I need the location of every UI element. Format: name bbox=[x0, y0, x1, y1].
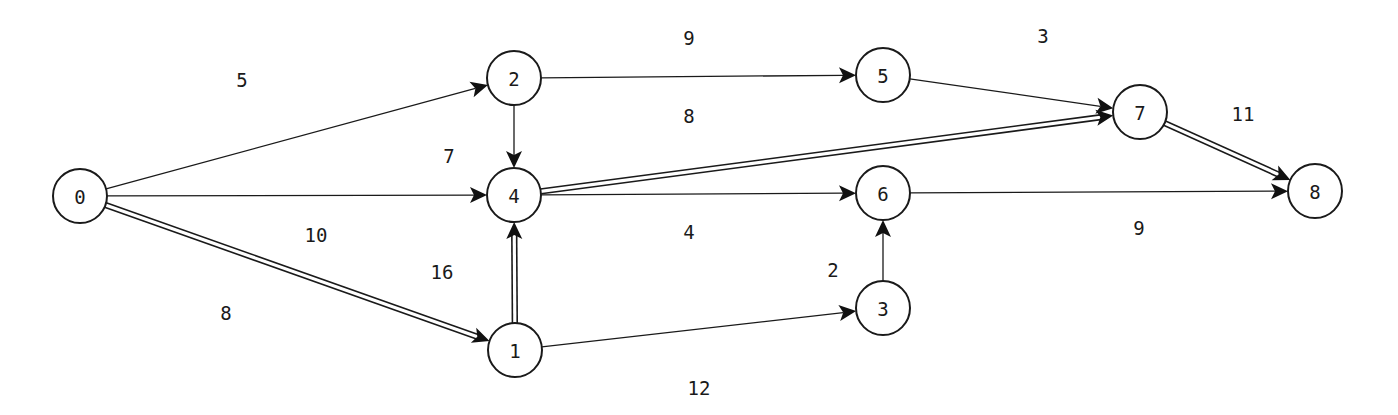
node-label: 6 bbox=[877, 183, 888, 205]
critical-edge-line bbox=[1164, 125, 1278, 176]
critical-edge-line bbox=[540, 115, 1100, 189]
node-3: 3 bbox=[856, 281, 910, 335]
edge-weight-5-7: 3 bbox=[1037, 25, 1048, 47]
edge-weight-1-3: 12 bbox=[688, 377, 711, 399]
arrowhead-icon bbox=[471, 328, 490, 343]
edge-weight-1-4: 16 bbox=[431, 261, 454, 283]
edge-line bbox=[910, 191, 1275, 193]
edge-weight-4-6: 4 bbox=[683, 221, 694, 243]
nodes-layer: 012345678 bbox=[53, 48, 1342, 377]
edge-weight-2-4: 7 bbox=[443, 145, 454, 167]
node-5: 5 bbox=[856, 48, 910, 102]
edge-weight-0-4: 10 bbox=[305, 224, 328, 246]
critical-edge-line bbox=[105, 207, 477, 339]
node-1: 1 bbox=[488, 323, 542, 377]
edge-line bbox=[541, 75, 843, 77]
critical-edge-line bbox=[541, 120, 1101, 194]
edge-0-2 bbox=[106, 82, 488, 189]
edge-weight-0-1: 8 bbox=[220, 302, 231, 324]
critical-edge-line bbox=[517, 235, 518, 323]
arrowhead-icon bbox=[506, 222, 522, 239]
edge-weight-2-5: 9 bbox=[683, 27, 694, 49]
node-label: 8 bbox=[1309, 181, 1320, 203]
edge-4-7 bbox=[540, 110, 1113, 194]
edge-weight-4-7: 8 bbox=[683, 105, 694, 127]
edge-2-4 bbox=[506, 105, 522, 168]
arrowhead-icon bbox=[1272, 166, 1291, 181]
critical-edge-line bbox=[106, 203, 478, 335]
node-6: 6 bbox=[856, 166, 910, 220]
node-7: 7 bbox=[1113, 85, 1167, 139]
edge-line bbox=[106, 88, 475, 188]
edge-weight-3-6: 2 bbox=[827, 259, 838, 281]
edge-1-3 bbox=[542, 305, 856, 347]
edge-line bbox=[107, 195, 474, 196]
node-label: 5 bbox=[877, 65, 888, 87]
node-label: 3 bbox=[877, 298, 888, 320]
edge-weight-0-2: 5 bbox=[236, 69, 247, 91]
edge-line bbox=[541, 193, 843, 195]
node-8: 8 bbox=[1288, 164, 1342, 218]
edge-0-4 bbox=[107, 187, 487, 203]
edge-line bbox=[910, 79, 1101, 106]
node-label: 4 bbox=[508, 185, 519, 207]
edge-2-5 bbox=[541, 67, 856, 83]
weights-layer: 51087916124823911 bbox=[220, 25, 1254, 399]
node-0: 0 bbox=[53, 169, 107, 223]
critical-edge-line bbox=[1166, 121, 1280, 172]
node-label: 7 bbox=[1134, 102, 1145, 124]
node-label: 1 bbox=[509, 340, 520, 362]
node-2: 2 bbox=[487, 51, 541, 105]
edge-1-4 bbox=[506, 222, 522, 323]
edge-3-6 bbox=[875, 220, 891, 281]
network-diagram: 51087916124823911 012345678 bbox=[0, 0, 1398, 415]
edge-5-7 bbox=[910, 79, 1114, 114]
node-label: 0 bbox=[74, 186, 85, 208]
edge-line bbox=[542, 313, 843, 347]
node-label: 2 bbox=[508, 68, 519, 90]
edge-weight-6-8: 9 bbox=[1133, 217, 1144, 239]
edge-7-8 bbox=[1164, 121, 1291, 180]
node-4: 4 bbox=[487, 168, 541, 222]
edge-weight-7-8: 11 bbox=[1232, 103, 1255, 125]
edge-6-8 bbox=[910, 183, 1288, 199]
critical-edge-line bbox=[512, 235, 513, 323]
